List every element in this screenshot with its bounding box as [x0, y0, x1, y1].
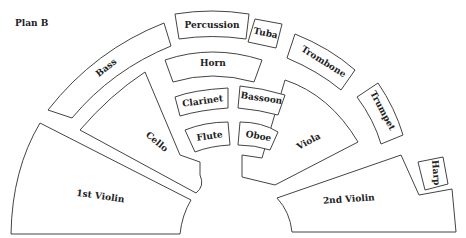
svg-text:Horn: Horn: [200, 58, 226, 68]
section-trumpet: Trumpet: [357, 83, 403, 144]
orchestra-seating-diagram: Plan B Percussion Tuba Bass Trombone Hor…: [0, 0, 466, 238]
section-percussion: Percussion: [175, 11, 249, 39]
section-bassoon: Bassoon: [238, 86, 285, 115]
svg-text:Percussion: Percussion: [184, 20, 240, 30]
section-horn: Horn: [165, 52, 262, 82]
section-trombone: Trombone: [287, 34, 355, 90]
section-harp: Harp: [418, 157, 448, 190]
section-clarinet: Clarinet: [175, 88, 228, 116]
section-tuba: Tuba: [248, 19, 282, 48]
section-flute: Flute: [185, 122, 230, 152]
